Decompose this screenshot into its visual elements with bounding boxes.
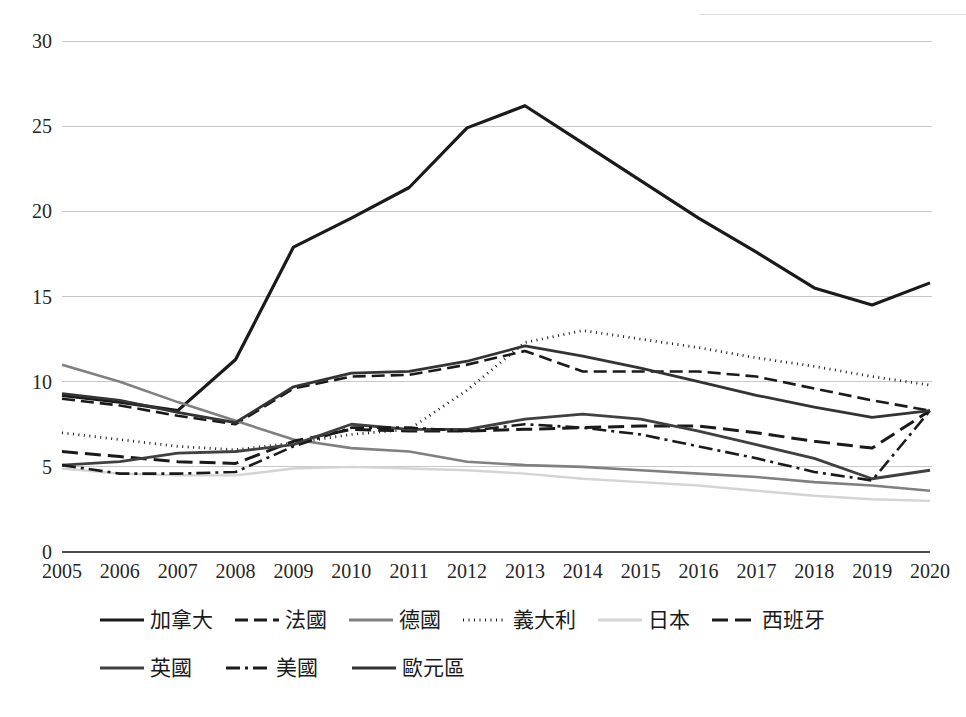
y-gridlines — [62, 41, 932, 467]
x-tick-label: 2007 — [158, 560, 198, 582]
legend-item-spain[interactable]: 西班牙 — [712, 608, 825, 632]
y-tick-label: 30 — [32, 30, 52, 52]
x-tick-label: 2009 — [273, 560, 313, 582]
y-tick-label: 25 — [32, 115, 52, 137]
legend-item-germany[interactable]: 德國 — [349, 608, 441, 632]
x-tick-label: 2020 — [910, 560, 950, 582]
legend-label-usa: 美國 — [276, 656, 318, 680]
series-line-uk — [62, 414, 930, 479]
legend-label-canada: 加拿大 — [150, 608, 213, 632]
legend-item-eurozone[interactable]: 歐元區 — [352, 656, 465, 680]
legend-label-italy: 義大利 — [513, 608, 576, 632]
x-tick-label: 2016 — [679, 560, 719, 582]
series-line-france — [62, 351, 930, 424]
legend-label-spain: 西班牙 — [762, 608, 825, 632]
legend-label-france: 法國 — [285, 608, 327, 632]
x-tick-label: 2019 — [852, 560, 892, 582]
series-line-canada — [62, 106, 930, 411]
y-tick-label: 15 — [32, 286, 52, 308]
chart-svg-canvas: 051015202530 200520062007200820092010201… — [0, 0, 966, 717]
series-line-japan — [62, 467, 930, 501]
x-tick-label: 2005 — [42, 560, 82, 582]
legend-item-france[interactable]: 法國 — [235, 608, 327, 632]
x-tick-label: 2006 — [100, 560, 140, 582]
x-tick-label: 2010 — [331, 560, 371, 582]
series-lines-layer — [62, 106, 930, 501]
x-tick-label: 2017 — [736, 560, 776, 582]
y-tick-label: 5 — [42, 456, 52, 478]
y-tick-label: 10 — [32, 371, 52, 393]
legend-item-japan[interactable]: 日本 — [598, 608, 690, 632]
legend-item-usa[interactable]: 美國 — [226, 656, 318, 680]
legend-label-germany: 德國 — [399, 608, 441, 632]
chart-legend: 加拿大法國德國義大利日本西班牙英國美國歐元區 — [100, 608, 825, 680]
legend-label-eurozone: 歐元區 — [402, 656, 465, 680]
x-axis-tick-labels: 2005200620072008200920102011201220132014… — [42, 560, 950, 582]
legend-label-japan: 日本 — [648, 608, 690, 632]
x-tick-label: 2014 — [563, 560, 603, 582]
legend-item-uk[interactable]: 英國 — [100, 656, 192, 680]
x-tick-label: 2015 — [621, 560, 661, 582]
x-tick-label: 2011 — [390, 560, 429, 582]
line-chart-figure: 051015202530 200520062007200820092010201… — [0, 0, 966, 717]
legend-item-italy[interactable]: 義大利 — [463, 608, 576, 632]
series-line-usa — [62, 411, 930, 481]
series-line-italy — [62, 331, 930, 450]
x-tick-label: 2018 — [794, 560, 834, 582]
x-tick-label: 2008 — [216, 560, 256, 582]
y-axis-tick-labels: 051015202530 — [32, 30, 52, 563]
x-tick-label: 2012 — [447, 560, 487, 582]
y-tick-label: 20 — [32, 200, 52, 222]
legend-item-canada[interactable]: 加拿大 — [100, 608, 213, 632]
legend-label-uk: 英國 — [150, 656, 192, 680]
x-tick-label: 2013 — [505, 560, 545, 582]
